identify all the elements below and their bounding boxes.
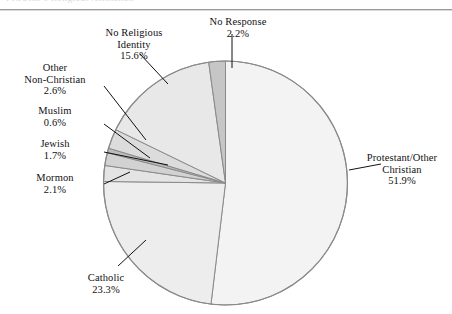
slice-label-protestant-other-christian: Protestant/Other Christian 51.9% [352,152,452,187]
slice-label-jewish: Jewish 1.7% [6,138,104,161]
slice-label-other-non-christian: Other Non-Christian 2.6% [6,62,104,97]
slice-value-jewish: 1.7% [6,150,104,162]
pie-slice-protestant-other-christian [211,61,348,305]
slice-label-no-response-line1: No Response [210,16,267,27]
pie-slice-group [104,61,348,305]
slice-value-protestant: 51.9% [352,175,452,187]
slice-value-no-religious-identity: 15.6% [86,50,182,62]
slice-value-no-response: 2.2% [185,28,291,40]
slice-label-no-response: No Response 2.2% [185,16,291,39]
slice-value-other-non-christian: 2.6% [6,85,104,97]
slice-label-other-non-christian-line1: Other [43,62,67,73]
slice-label-muslim-line1: Muslim [38,105,71,116]
figure-canvas: FIGURE 6 Religious Affiliation No Religi… [0,0,452,314]
slice-label-jewish-line1: Jewish [40,138,69,149]
slice-label-other-non-christian-line2: Non-Christian [6,74,104,86]
slice-label-protestant-line1: Protestant/Other [367,152,437,163]
slice-label-catholic: Catholic 23.3% [60,272,152,295]
slice-value-mormon: 2.1% [6,184,104,196]
slice-value-muslim: 0.6% [6,117,104,129]
slice-label-catholic-line1: Catholic [88,272,124,283]
slice-value-catholic: 23.3% [60,284,152,296]
slice-label-mormon-line1: Mormon [36,172,73,183]
slice-label-mormon: Mormon 2.1% [6,172,104,195]
slice-label-no-religious-identity: No Religious Identity 15.6% [86,27,182,62]
slice-label-no-religious-identity-line2: Identity [86,39,182,51]
slice-label-no-religious-identity-line1: No Religious [106,27,163,38]
slice-label-muslim: Muslim 0.6% [6,105,104,128]
slice-label-protestant-line2: Christian [352,164,452,176]
